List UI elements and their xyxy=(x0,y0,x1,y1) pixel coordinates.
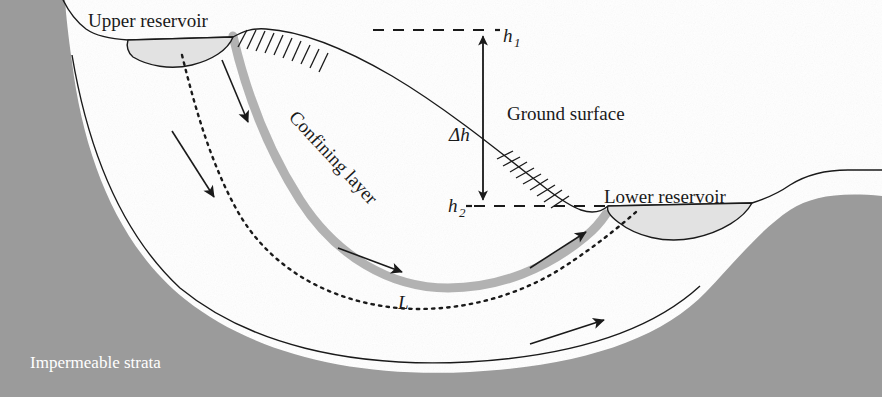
flow-path-length-label: L xyxy=(397,292,409,313)
flow-arrow-4 xyxy=(530,232,586,268)
h1-label: h 1 xyxy=(503,25,521,50)
lower-reservoir xyxy=(607,203,752,240)
head-difference-label: Δh xyxy=(448,124,470,145)
ground-surface-profile xyxy=(63,0,882,212)
flow-arrow-5 xyxy=(530,320,604,344)
lower-reservoir-water xyxy=(607,203,752,240)
impermeable-strata-region xyxy=(0,0,882,397)
ground-surface-label: Ground surface xyxy=(507,103,625,124)
h1-subscript: 1 xyxy=(514,35,521,50)
hydrogeology-diagram: Upper reservoir Lower reservoir Ground s… xyxy=(0,0,882,397)
lower-reservoir-label: Lower reservoir xyxy=(604,186,727,207)
h2-label: h 2 xyxy=(448,195,466,220)
confining-layer-band xyxy=(233,36,606,288)
flow-arrow-2 xyxy=(172,131,214,197)
h2-symbol: h xyxy=(448,195,458,216)
diagram-canvas: Upper reservoir Lower reservoir Ground s… xyxy=(0,0,882,397)
h1-symbol: h xyxy=(503,25,513,46)
upper-reservoir xyxy=(127,37,233,67)
impermeable-strata-fill xyxy=(0,0,882,397)
impermeable-strata-label: Impermeable strata xyxy=(30,353,161,372)
hachure-marks-lower xyxy=(497,151,569,208)
h2-subscript: 2 xyxy=(459,205,466,220)
confining-layer-region xyxy=(233,36,606,288)
upper-reservoir-water xyxy=(127,37,233,67)
hachure-marks-upper xyxy=(238,30,328,72)
upper-reservoir-label: Upper reservoir xyxy=(88,10,208,31)
